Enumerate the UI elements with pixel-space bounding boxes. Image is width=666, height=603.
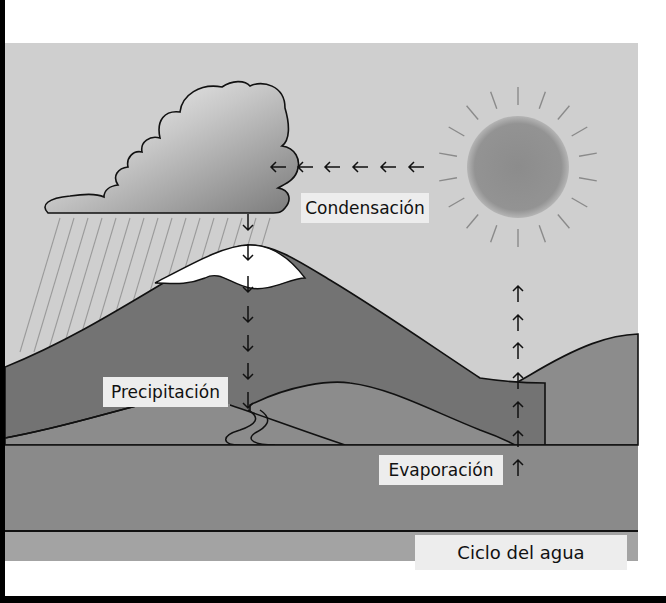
condensation-label: Condensación [301, 193, 429, 223]
diagram-title: Ciclo del agua [415, 535, 627, 570]
lake [5, 445, 638, 531]
diagram-frame: Condensación Precipitación Evaporación C… [5, 0, 666, 596]
evaporation-label: Evaporación [379, 455, 503, 485]
water-cycle-diagram [5, 0, 666, 596]
precipitation-label: Precipitación [103, 377, 228, 407]
